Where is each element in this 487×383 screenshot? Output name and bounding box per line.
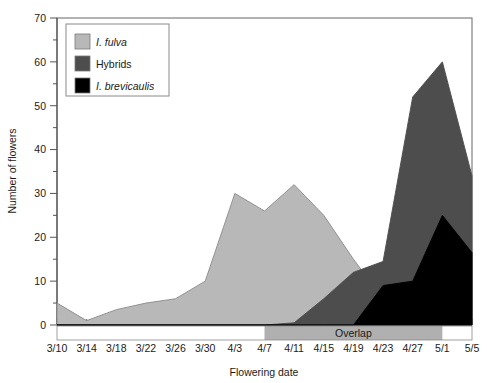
y-tick-label: 70 (34, 12, 46, 24)
y-tick-label: 60 (34, 56, 46, 68)
x-tick-label: 5/5 (465, 342, 480, 354)
y-tick-label: 30 (34, 187, 46, 199)
y-tick-label: 40 (34, 143, 46, 155)
legend-swatch (75, 56, 90, 71)
x-tick-label: 3/18 (106, 342, 127, 354)
x-tick-label: 4/19 (343, 342, 364, 354)
x-tick-label: 4/27 (402, 342, 423, 354)
y-tick-label: 0 (40, 319, 46, 331)
flowering-date-area-chart: 010203040506070 3/103/143/183/223/263/30… (0, 0, 487, 383)
y-tick-label: 50 (34, 100, 46, 112)
x-axis-tick-labels: 3/103/143/183/223/263/304/34/74/114/154/… (47, 342, 480, 354)
x-tick-label: 3/14 (76, 342, 97, 354)
y-tick-label: 10 (34, 275, 46, 287)
x-tick-label: 3/30 (195, 342, 216, 354)
legend-swatch (75, 78, 90, 93)
x-tick-label: 3/10 (47, 342, 68, 354)
legend-label: I. brevicaulis (96, 80, 155, 92)
chart-container: 010203040506070 3/103/143/183/223/263/30… (0, 0, 487, 383)
x-tick-label: 5/1 (435, 342, 450, 354)
chart-legend: I. fulvaHybridsI. brevicaulis (66, 24, 169, 96)
x-axis-title: Flowering date (230, 366, 299, 378)
x-tick-label: 4/23 (373, 342, 394, 354)
y-axis-title: Number of flowers (6, 128, 18, 213)
x-tick-label: 3/26 (165, 342, 186, 354)
x-tick-label: 4/3 (228, 342, 243, 354)
overlap-label: Overlap (335, 327, 372, 339)
y-tick-label: 20 (34, 231, 46, 243)
x-tick-label: 4/11 (284, 342, 304, 354)
legend-swatch (75, 34, 90, 49)
x-tick-label: 4/7 (257, 342, 272, 354)
legend-label: Hybrids (96, 58, 132, 70)
x-tick-label: 3/22 (136, 342, 157, 354)
x-tick-label: 4/15 (314, 342, 335, 354)
legend-label: I. fulva (96, 36, 127, 48)
